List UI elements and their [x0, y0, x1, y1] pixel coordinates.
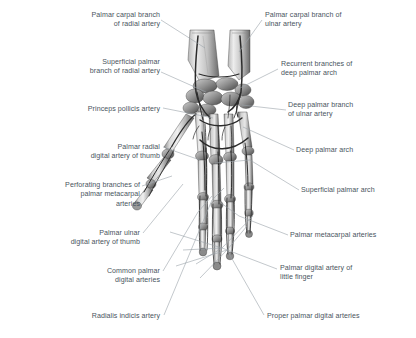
label-palmar-metacarpal-arteries: Palmar metacarpal arteries	[290, 231, 416, 240]
label-palmar-ulnar-digital-artery-of-thumb: Palmar ulnar digital artery of thumb	[22, 229, 140, 248]
label-palmar-radial-digital-artery-of-thumb: Palmar radial digital artery of thumb	[22, 143, 160, 162]
palmar-hand-arteries-illustration	[0, 0, 416, 338]
label-superficial-palmar-branch-of-radial-artery: Superficial palmar branch of radial arte…	[48, 58, 160, 77]
anatomical-diagram-page: Palmar carpal branch of radial artery Pa…	[0, 0, 416, 338]
label-palmar-carpal-branch-of-ulnar-artery: Palmar carpal branch of ulnar artery	[265, 11, 385, 30]
label-recurrent-branches-of-deep-palmar-arch: Recurrent branches of deep palmar arch	[281, 60, 405, 79]
label-superficial-palmar-arch: Superficial palmar arch	[301, 186, 413, 195]
label-deep-palmar-arch: Deep palmar arch	[296, 146, 396, 155]
label-deep-palmar-branch-of-ulnar-artery: Deep palmar branch of ulnar artery	[288, 101, 406, 120]
label-palmar-digital-artery-of-little-finger: Palmar digital artery of little finger	[280, 264, 406, 283]
label-common-palmar-digital-arteries: Common palmar digital arteries	[58, 267, 160, 286]
label-perforating-branches-of-palmar-metacarpal-arteries: Perforating branches of palmar metacarpa…	[14, 181, 140, 209]
label-radialis-indicis-artery: Radialis indicis artery	[58, 312, 160, 321]
label-proper-palmar-digital-arteries: Proper palmar digital arteries	[267, 312, 407, 321]
label-palmar-carpal-branch-of-radial-artery: Palmar carpal branch of radial artery	[60, 11, 160, 30]
label-princeps-pollicis-artery: Princeps pollicis artery	[28, 105, 160, 114]
